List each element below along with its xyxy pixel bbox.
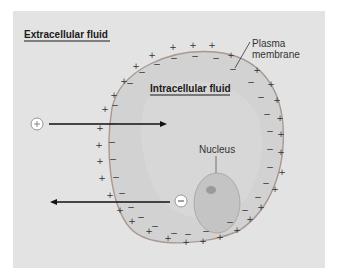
svg-text:+: + [101,104,109,114]
arrow-left-icon [50,199,57,205]
minus-circle-icon [175,195,187,207]
svg-text:+: + [98,173,106,183]
svg-text:−: − [262,178,270,188]
svg-text:+: + [277,129,285,139]
svg-text:+: + [96,156,104,166]
plasma-membrane-label-line2: membrane [252,49,300,60]
svg-text:−: − [127,202,135,212]
svg-text:−: − [254,192,262,202]
nucleus-label: Nucleus [199,144,235,155]
svg-text:+: + [253,65,261,75]
extracellular-fluid-label: Extracellular fluid [24,29,108,40]
svg-text:+: + [267,79,275,89]
svg-text:+: + [116,205,124,215]
svg-text:+: + [96,123,104,133]
svg-text:+: + [128,216,136,226]
svg-text:−: − [191,51,199,61]
svg-text:+: + [246,214,254,224]
svg-text:+: + [277,147,285,157]
nucleolus [206,186,216,194]
svg-text:−: − [137,212,145,222]
svg-text:−: − [112,172,120,182]
svg-text:+: + [278,167,286,177]
svg-text:+: + [257,202,265,212]
svg-text:−: − [151,221,159,231]
svg-text:−: − [126,78,134,88]
svg-text:−: − [153,59,161,69]
svg-text:−: − [108,137,116,147]
svg-text:+: + [110,90,118,100]
svg-text:−: − [202,226,210,236]
svg-text:+: + [227,50,235,60]
svg-text:−: − [170,53,178,63]
svg-text:+: + [271,184,279,194]
svg-text:−: − [257,92,265,102]
svg-text:+: + [199,236,207,246]
svg-text:−: − [241,205,249,215]
svg-text:−: − [170,228,178,238]
svg-text:−: − [118,188,126,198]
svg-text:+: + [106,190,114,200]
svg-text:−: − [266,126,274,136]
svg-text:+: + [208,40,216,50]
svg-text:+: + [95,140,103,150]
svg-text:−: − [226,217,234,227]
svg-text:−: − [111,100,119,110]
plasma-membrane-label-line1: Plasma [252,38,286,49]
svg-text:−: − [266,144,274,154]
svg-text:−: − [109,118,117,128]
svg-text:+: + [169,42,177,52]
svg-text:+: + [189,40,197,50]
svg-text:−: − [212,53,220,63]
svg-text:−: − [247,77,255,87]
svg-text:+: + [233,225,241,235]
svg-text:−: − [184,229,192,239]
svg-text:−: − [266,162,274,172]
svg-text:+: + [216,232,224,242]
plus-circle-icon [31,118,43,130]
svg-text:+: + [276,113,284,123]
intracellular-fluid-label: Intracellular fluid [150,83,231,94]
svg-text:−: − [263,109,271,119]
cell-diagram: Extracellular fluid Intracellular fluid … [0,0,337,278]
svg-text:+: + [273,95,281,105]
svg-text:−: − [229,64,237,74]
svg-text:−: − [109,154,117,164]
svg-text:−: − [138,67,146,77]
